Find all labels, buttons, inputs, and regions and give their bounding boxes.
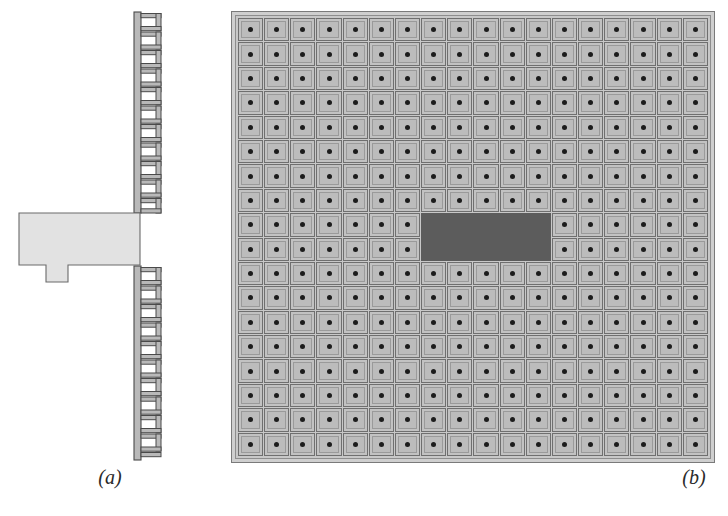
cell-dot-icon — [300, 125, 305, 130]
array-cell — [683, 262, 708, 285]
array-cell — [421, 18, 446, 41]
cell-dot-icon — [588, 369, 593, 374]
array-cell — [395, 116, 420, 139]
array-cell — [683, 213, 708, 236]
array-cell — [552, 116, 577, 139]
cell-dot-icon — [405, 174, 410, 179]
cell-dot-icon — [693, 247, 698, 252]
cell-dot-icon — [457, 369, 462, 374]
array-cell — [552, 408, 577, 431]
array-cell — [526, 18, 551, 41]
cell-dot-icon — [248, 198, 253, 203]
cell-dot-icon — [693, 320, 698, 325]
array-cell — [500, 311, 525, 334]
array-cell — [238, 18, 263, 41]
array-cell — [473, 359, 498, 382]
array-cell — [447, 164, 472, 187]
array-cell — [343, 311, 368, 334]
cell-dot-icon — [274, 100, 279, 105]
cell-dot-icon — [248, 344, 253, 349]
array-cell — [683, 189, 708, 212]
cell-dot-icon — [431, 125, 436, 130]
array-cell — [683, 359, 708, 382]
array-cell — [657, 67, 682, 90]
array-cell — [657, 286, 682, 309]
array-cell — [683, 140, 708, 163]
cell-dot-icon — [536, 393, 541, 398]
cell-dot-icon — [405, 369, 410, 374]
cell-dot-icon — [562, 320, 567, 325]
array-cell — [500, 408, 525, 431]
cell-dot-icon — [562, 247, 567, 252]
cell-dot-icon — [405, 247, 410, 252]
array-cell — [683, 116, 708, 139]
cell-dot-icon — [536, 76, 541, 81]
array-cell — [630, 18, 655, 41]
array-cell — [421, 286, 446, 309]
array-cell — [604, 189, 629, 212]
cell-dot-icon — [431, 198, 436, 203]
array-cell — [290, 164, 315, 187]
array-cell — [395, 189, 420, 212]
cell-dot-icon — [562, 393, 567, 398]
cell-dot-icon — [274, 149, 279, 154]
cell-dot-icon — [457, 344, 462, 349]
cell-dot-icon — [536, 125, 541, 130]
array-cell — [604, 91, 629, 114]
array-cell — [630, 286, 655, 309]
cell-dot-icon — [457, 320, 462, 325]
array-cell — [578, 140, 603, 163]
array-cell — [683, 384, 708, 407]
array-cell — [238, 433, 263, 456]
array-cell — [473, 286, 498, 309]
cell-dot-icon — [353, 125, 358, 130]
attached-block — [19, 213, 140, 282]
array-cell — [264, 408, 289, 431]
array-cell — [500, 42, 525, 65]
cell-dot-icon — [641, 295, 646, 300]
array-cell — [578, 164, 603, 187]
cell-dot-icon — [484, 369, 489, 374]
cell-dot-icon — [405, 76, 410, 81]
cell-dot-icon — [614, 27, 619, 32]
array-cell — [552, 238, 577, 261]
cell-dot-icon — [353, 393, 358, 398]
array-cell — [369, 42, 394, 65]
cell-dot-icon — [379, 417, 384, 422]
array-cell — [630, 164, 655, 187]
array-cell — [500, 433, 525, 456]
array-cell — [578, 408, 603, 431]
array-cell — [630, 140, 655, 163]
array-cell — [683, 286, 708, 309]
array-cell — [316, 359, 341, 382]
array-cell — [604, 311, 629, 334]
cell-dot-icon — [327, 76, 332, 81]
caption-panel-a: (a) — [0, 466, 220, 489]
caption-panel-b: (b) — [440, 466, 728, 489]
array-cell — [500, 91, 525, 114]
cell-dot-icon — [327, 320, 332, 325]
array-cell — [316, 384, 341, 407]
array-cell — [264, 433, 289, 456]
cell-dot-icon — [588, 125, 593, 130]
array-cell — [657, 164, 682, 187]
cell-dot-icon — [457, 125, 462, 130]
array-cell — [657, 140, 682, 163]
cell-dot-icon — [562, 76, 567, 81]
array-cell — [473, 408, 498, 431]
cell-dot-icon — [248, 149, 253, 154]
array-cell — [238, 67, 263, 90]
cell-dot-icon — [667, 271, 672, 276]
array-cell — [343, 359, 368, 382]
array-cell — [395, 384, 420, 407]
cell-dot-icon — [641, 27, 646, 32]
array-cell — [369, 238, 394, 261]
cell-dot-icon — [588, 52, 593, 57]
cell-dot-icon — [693, 295, 698, 300]
cell-dot-icon — [327, 27, 332, 32]
cell-dot-icon — [457, 271, 462, 276]
array-cell — [343, 384, 368, 407]
array-cell — [447, 116, 472, 139]
array-cell — [604, 238, 629, 261]
cell-dot-icon — [405, 52, 410, 57]
